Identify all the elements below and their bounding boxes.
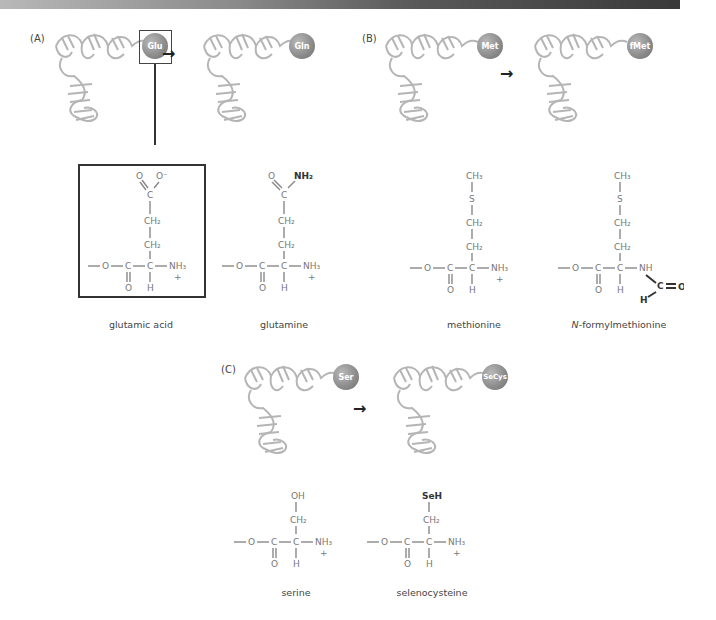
svg-text:O: O: [447, 285, 454, 295]
label-methionine: methionine: [404, 319, 544, 330]
svg-text:O: O: [268, 171, 275, 181]
svg-text:+: +: [453, 548, 461, 558]
svg-text:+: +: [308, 272, 316, 282]
svg-text:+: +: [320, 548, 328, 558]
svg-text:SeH: SeH: [422, 491, 442, 501]
svg-text:C: C: [259, 261, 265, 271]
svg-text:NH₃: NH₃: [169, 261, 187, 271]
svg-text:C: C: [125, 261, 131, 271]
label-n-formylmethionine: N-formylmethionine: [549, 319, 689, 330]
svg-text:O: O: [125, 283, 132, 293]
svg-text:NH₃: NH₃: [491, 263, 509, 273]
svg-text:NH₃: NH₃: [303, 261, 321, 271]
label-glutamine: glutamine: [214, 319, 354, 330]
svg-text:CH₂: CH₂: [290, 515, 307, 525]
arrow-c: →: [353, 399, 366, 418]
structure-glutamic-acid: O O⁻ C CH₂ CH₂ O C C NH₃ + O H: [84, 168, 204, 293]
svg-text:O: O: [271, 559, 278, 569]
panel-label-a: (A): [30, 33, 45, 44]
atom-c: C: [147, 190, 153, 200]
svg-text:O: O: [248, 537, 255, 547]
svg-text:NH₂: NH₂: [294, 171, 313, 181]
svg-text:CH₃: CH₃: [466, 171, 483, 181]
svg-text:NH: NH: [639, 263, 653, 273]
svg-text:O: O: [678, 282, 684, 292]
svg-text:CH₂: CH₂: [466, 242, 483, 252]
svg-text:O: O: [259, 283, 266, 293]
svg-text:C: C: [404, 537, 410, 547]
svg-text:O: O: [102, 261, 109, 271]
svg-text:H: H: [147, 283, 154, 293]
svg-text:C: C: [293, 537, 299, 547]
svg-text:OH: OH: [291, 491, 305, 501]
amino-acid-sphere-fmet: fMet: [627, 33, 653, 59]
svg-text:CH₃: CH₃: [614, 171, 631, 181]
label-glutamic-acid: glutamic acid: [71, 319, 211, 330]
svg-text:C: C: [147, 261, 153, 271]
svg-text:C: C: [617, 263, 623, 273]
svg-text:C: C: [657, 281, 664, 291]
svg-text:H: H: [281, 283, 288, 293]
svg-text:C: C: [281, 190, 287, 200]
svg-text:O: O: [236, 261, 243, 271]
svg-text:CH₂: CH₂: [423, 515, 440, 525]
svg-text:NH₃: NH₃: [315, 537, 333, 547]
svg-text:CH₂: CH₂: [614, 242, 631, 252]
svg-text:H: H: [426, 559, 433, 569]
svg-text:H: H: [469, 285, 476, 295]
connector-line: [154, 64, 156, 145]
svg-text:C: C: [281, 261, 287, 271]
svg-text:C: C: [271, 537, 277, 547]
svg-text:NH₃: NH₃: [448, 537, 466, 547]
atom-o-minus: O⁻: [156, 171, 168, 181]
svg-text:C: C: [426, 537, 432, 547]
svg-text:O: O: [404, 559, 411, 569]
structure-methionine: CH₃ S CH₂ CH₂ O C C NH₃ + O H: [406, 168, 526, 308]
svg-text:+: +: [496, 274, 504, 284]
structure-n-formylmethionine: CH₃ S CH₂ CH₂ O C C NH C O H O H: [554, 168, 684, 308]
amino-acid-sphere-met: Met: [477, 33, 503, 59]
svg-text:+: +: [174, 272, 182, 282]
label-serine: serine: [226, 587, 366, 598]
svg-text:H: H: [617, 285, 624, 295]
svg-text:O: O: [572, 263, 579, 273]
svg-text:H: H: [293, 559, 300, 569]
structure-serine: OH CH₂ O C C NH₃ + O H: [230, 488, 350, 583]
structure-glutamine: O NH₂ C CH₂ CH₂ O C C NH₃ + O H: [218, 168, 338, 293]
amino-acid-sphere-gln: Gln: [289, 33, 315, 59]
panel-label-c: (C): [221, 364, 236, 375]
amino-acid-sphere-secys: SeCys: [482, 364, 508, 390]
structure-selenocysteine: SeH CH₂ O C C NH₃ + O H: [363, 488, 483, 583]
atom-o: O: [136, 171, 143, 181]
header-bar: [0, 0, 680, 9]
svg-text:C: C: [469, 263, 475, 273]
panel-label-b: (B): [362, 33, 377, 44]
arrow-b: →: [500, 64, 513, 83]
svg-text:O: O: [424, 263, 431, 273]
atom-ch2: CH₂: [144, 240, 161, 250]
svg-text:S: S: [617, 194, 623, 204]
svg-text:C: C: [595, 263, 601, 273]
atom-ch2: CH₂: [144, 216, 161, 226]
svg-text:O: O: [595, 285, 602, 295]
amino-acid-sphere-ser: Ser: [333, 364, 359, 390]
svg-text:S: S: [469, 194, 475, 204]
svg-text:H: H: [640, 295, 648, 305]
svg-text:CH₂: CH₂: [466, 218, 483, 228]
svg-text:C: C: [447, 263, 453, 273]
svg-text:CH₂: CH₂: [278, 216, 295, 226]
svg-text:O: O: [381, 537, 388, 547]
label-selenocysteine: selenocysteine: [362, 587, 502, 598]
svg-text:CH₂: CH₂: [278, 240, 295, 250]
svg-text:CH₂: CH₂: [614, 218, 631, 228]
arrow-a: →: [162, 44, 175, 63]
